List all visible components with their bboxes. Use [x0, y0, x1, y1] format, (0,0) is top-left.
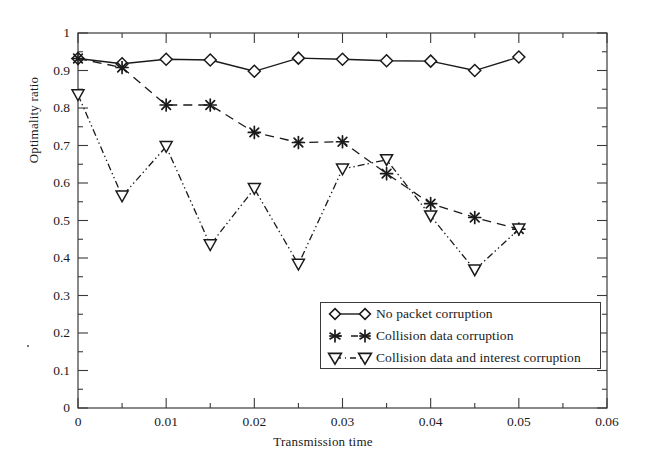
y-tick-label: 0.2	[24, 326, 70, 340]
x-tick-label: 0	[48, 415, 108, 429]
legend-label: No packet corruption	[376, 306, 493, 322]
asterisk-icon	[326, 326, 374, 346]
x-axis-title: Transmission time	[0, 434, 646, 450]
triangle-down-icon	[326, 348, 374, 368]
y-axis-title: Optimality ratio	[26, 0, 42, 320]
series-layer	[72, 51, 525, 276]
legend-item-no-packet-corruption: No packet corruption	[321, 303, 600, 325]
legend-item-collision-data-corruption: Collision data corruption	[321, 325, 600, 347]
series-triangle-down	[72, 90, 525, 276]
y-tick-label: 0	[24, 401, 70, 415]
x-tick-label: 0.02	[224, 415, 284, 429]
legend-label: Collision data and interest corruption	[376, 350, 581, 366]
y-tick-label: 0.1	[24, 364, 70, 378]
x-tick-label: 0.05	[489, 415, 549, 429]
x-tick-label: 0.06	[577, 415, 637, 429]
page-speck	[27, 345, 29, 347]
x-tick-label: 0.03	[313, 415, 373, 429]
x-tick-label: 0.01	[136, 415, 196, 429]
chart-figure: 00.10.20.30.40.50.60.70.80.91 00.010.020…	[0, 0, 646, 462]
series-diamond	[72, 51, 525, 77]
diamond-icon	[326, 304, 374, 324]
plot-canvas	[0, 0, 646, 462]
series-asterisk	[72, 53, 525, 236]
chart-legend: No packet corruption Collision data corr…	[320, 302, 601, 369]
legend-item-collision-data-and-interest-corruption: Collision data and interest corruption	[321, 347, 600, 369]
x-tick-label: 0.04	[401, 415, 461, 429]
legend-label: Collision data corruption	[376, 328, 513, 344]
